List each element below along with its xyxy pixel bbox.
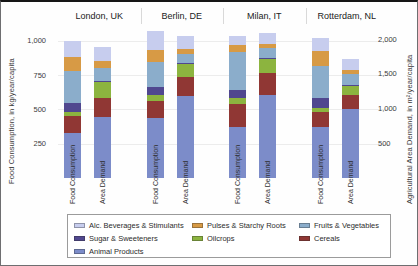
- bar-segment-london-uk-food-consumption-cereals: [64, 116, 81, 134]
- legend-item-cereals: Cereals: [299, 232, 388, 244]
- bar-segment-milan-it-area-demand-cereals: [259, 73, 276, 94]
- legend-swatch-sugar-sweeteners: [74, 236, 85, 241]
- legend-label: Sugar & Sweeteners: [89, 234, 158, 243]
- bar-segment-berlin-de-food-consumption-fruits-vegetables: [147, 62, 164, 87]
- legend-item-alc-beverages-stimulants: Alc. Beverages & Stimulants: [74, 219, 192, 231]
- bar-segment-milan-it-food-consumption-alc-beverages-stimulants: [229, 36, 246, 45]
- bar-label-milan-it-food-consumption: Food Consumption: [233, 145, 242, 204]
- bar-segment-milan-it-area-demand-oilcrops: [259, 59, 276, 74]
- left-axis-tick-label: 250: [17, 139, 46, 148]
- legend-label: Oilcrops: [207, 234, 235, 243]
- bar-segment-london-uk-food-consumption-pulses-starchy-roots: [64, 57, 81, 71]
- group-title-rotterdam-nl: Rotterdam, NL: [306, 11, 389, 21]
- legend: Alc. Beverages & StimulantsPulses & Star…: [67, 214, 391, 258]
- right-axis-tick-label: 1,500: [378, 69, 406, 78]
- bar-label-berlin-de-area-demand: Area Demand: [181, 161, 190, 204]
- bar-segment-rotterdam-nl-area-demand-sugar-sweeteners: [342, 85, 359, 86]
- gridline: [58, 41, 389, 42]
- left-axis-tick-label: 500: [17, 105, 46, 114]
- right-axis-tick-label: 1,000: [378, 104, 406, 113]
- bar-segment-berlin-de-food-consumption-cereals: [147, 101, 164, 118]
- bar-segment-berlin-de-area-demand-sugar-sweeteners: [177, 63, 194, 64]
- bar-segment-berlin-de-food-consumption-sugar-sweeteners: [147, 87, 164, 95]
- bar-segment-milan-it-food-consumption-cereals: [229, 104, 246, 127]
- bar-segment-berlin-de-area-demand-alc-beverages-stimulants: [177, 36, 194, 49]
- bar-segment-berlin-de-area-demand-cereals: [177, 77, 194, 96]
- bar-segment-berlin-de-area-demand-oilcrops: [177, 64, 194, 77]
- legend-item-pulses-starchy-roots: Pulses & Starchy Roots: [192, 219, 299, 231]
- legend-swatch-alc-beverages-stimulants: [74, 223, 85, 228]
- bar-segment-london-uk-area-demand-pulses-starchy-roots: [94, 61, 111, 68]
- left-axis-tick-label: 1,000: [17, 36, 46, 45]
- left-axis-tick-label: 750: [17, 71, 46, 80]
- right-axis-title: Agricultural Area Demand, in m²/year/cap…: [405, 55, 414, 204]
- right-axis-tick-label: 2,000: [378, 35, 406, 44]
- legend-swatch-pulses-starchy-roots: [192, 223, 203, 228]
- bar-segment-rotterdam-nl-food-consumption-oilcrops: [312, 108, 329, 111]
- legend-swatch-oilcrops: [192, 236, 203, 241]
- bar-segment-berlin-de-food-consumption-pulses-starchy-roots: [147, 50, 164, 62]
- bar-segment-london-uk-food-consumption-fruits-vegetables: [64, 71, 81, 103]
- bar-segment-milan-it-area-demand-pulses-starchy-roots: [259, 44, 276, 48]
- bar-segment-rotterdam-nl-area-demand-oilcrops: [342, 85, 359, 95]
- bar-segment-london-uk-area-demand-alc-beverages-stimulants: [94, 47, 111, 61]
- right-axis-tick-label: 500: [378, 139, 406, 148]
- group-title-berlin-de: Berlin, DE: [141, 11, 224, 21]
- bar-segment-rotterdam-nl-food-consumption-alc-beverages-stimulants: [312, 38, 329, 50]
- bar-segment-rotterdam-nl-area-demand-pulses-starchy-roots: [342, 70, 359, 74]
- bar-segment-rotterdam-nl-food-consumption-pulses-starchy-roots: [312, 51, 329, 66]
- bar-segment-milan-it-food-consumption-pulses-starchy-roots: [229, 45, 246, 52]
- bar-segment-london-uk-food-consumption-sugar-sweeteners: [64, 103, 81, 111]
- bar-label-milan-it-area-demand: Area Demand: [263, 161, 272, 204]
- bar-label-london-uk-area-demand: Area Demand: [98, 161, 107, 204]
- legend-swatch-fruits-vegetables: [299, 223, 310, 228]
- bar-label-london-uk-food-consumption: Food Consumption: [68, 145, 77, 204]
- bar-label-berlin-de-food-consumption: Food Consumption: [151, 145, 160, 204]
- bar-segment-milan-it-area-demand-fruits-vegetables: [259, 48, 276, 58]
- bar-segment-london-uk-food-consumption-alc-beverages-stimulants: [64, 41, 81, 57]
- bar-segment-rotterdam-nl-food-consumption-cereals: [312, 112, 329, 127]
- bar-label-rotterdam-nl-food-consumption: Food Consumption: [316, 145, 325, 204]
- legend-label: Pulses & Starchy Roots: [207, 221, 286, 230]
- legend-label: Alc. Beverages & Stimulants: [89, 221, 184, 230]
- bar-segment-london-uk-area-demand-fruits-vegetables: [94, 68, 111, 81]
- bar-segment-berlin-de-food-consumption-alc-beverages-stimulants: [147, 31, 164, 50]
- bar-segment-berlin-de-area-demand-pulses-starchy-roots: [177, 49, 194, 54]
- bar-segment-london-uk-area-demand-sugar-sweeteners: [94, 81, 111, 82]
- bar-segment-milan-it-food-consumption-oilcrops: [229, 98, 246, 104]
- legend-item-animal-products: Animal Products: [74, 245, 192, 257]
- bar-segment-london-uk-area-demand-cereals: [94, 98, 111, 116]
- bar-segment-milan-it-area-demand-sugar-sweeteners: [259, 58, 276, 59]
- bar-segment-rotterdam-nl-area-demand-fruits-vegetables: [342, 74, 359, 84]
- bar-segment-milan-it-area-demand-alc-beverages-stimulants: [259, 33, 276, 44]
- bar-segment-london-uk-area-demand-oilcrops: [94, 82, 111, 98]
- bar-segment-milan-it-food-consumption-sugar-sweeteners: [229, 90, 246, 98]
- chart-frame: Food Consumption, in kg/year/capita Agri…: [0, 0, 418, 266]
- group-title-london-uk: London, UK: [58, 11, 141, 21]
- bar-segment-rotterdam-nl-area-demand-cereals: [342, 95, 359, 109]
- legend-label: Fruits & Vegetables: [314, 221, 379, 230]
- legend-label: Animal Products: [89, 247, 144, 256]
- legend-swatch-cereals: [299, 236, 310, 241]
- bar-segment-berlin-de-area-demand-fruits-vegetables: [177, 54, 194, 63]
- bar-segment-rotterdam-nl-food-consumption-sugar-sweeteners: [312, 98, 329, 108]
- bar-segment-rotterdam-nl-area-demand-alc-beverages-stimulants: [342, 59, 359, 70]
- group-title-milan-it: Milan, IT: [223, 11, 306, 21]
- legend-swatch-animal-products: [74, 249, 85, 254]
- bar-segment-milan-it-food-consumption-fruits-vegetables: [229, 52, 246, 90]
- legend-item-sugar-sweeteners: Sugar & Sweeteners: [74, 232, 192, 244]
- legend-item-fruits-vegetables: Fruits & Vegetables: [299, 219, 388, 231]
- bar-segment-rotterdam-nl-food-consumption-fruits-vegetables: [312, 66, 329, 98]
- bar-segment-berlin-de-food-consumption-oilcrops: [147, 95, 164, 101]
- bar-segment-london-uk-food-consumption-oilcrops: [64, 112, 81, 116]
- legend-label: Cereals: [314, 234, 340, 243]
- bar-label-rotterdam-nl-area-demand: Area Demand: [346, 161, 355, 204]
- legend-item-oilcrops: Oilcrops: [192, 232, 299, 244]
- left-axis-title: Food Consumption, in kg/year/capita: [7, 58, 16, 184]
